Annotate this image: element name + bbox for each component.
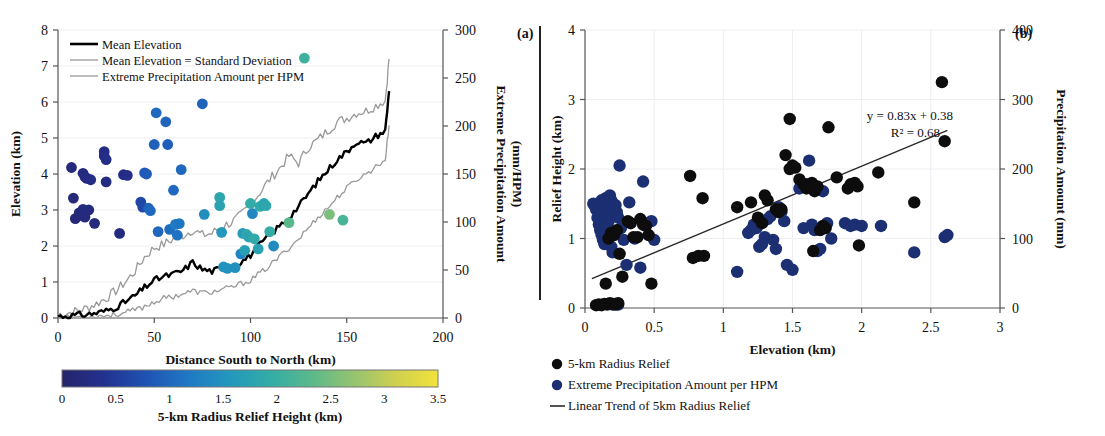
- panel-a-ylabel-right-units: (mm/HPM): [510, 141, 525, 208]
- colorbar-tick-label: 3: [381, 391, 388, 406]
- panel-a-scatter-point: [174, 218, 185, 229]
- colorbar-tick-label: 1.5: [215, 391, 231, 406]
- panel-a-ytick-right-label: 300: [455, 23, 476, 38]
- panel-b-ytick-label: 2: [568, 162, 575, 177]
- panel-a-scatter-point: [245, 198, 256, 209]
- colorbar-tick-label: 3.5: [430, 391, 446, 406]
- legend-marker-dot: [552, 359, 562, 369]
- panel-a-scatter-point: [216, 227, 227, 238]
- panel-a-scatter-point: [324, 209, 335, 220]
- panel-a-ytick-right-label: 250: [455, 71, 476, 86]
- panel-a-scatter-point: [338, 215, 349, 226]
- panel-a-scatter-point: [172, 230, 183, 241]
- panel-a-ytick-label: 2: [41, 239, 48, 254]
- mean-elevation-plus-sd-curve: [58, 59, 389, 318]
- panel-b-precip-point: [875, 220, 887, 232]
- panel-b-precip-point: [637, 175, 649, 187]
- panel-b-relief-point: [745, 196, 757, 208]
- colorbar: [62, 370, 438, 387]
- panel-a-scatter-point: [160, 116, 171, 127]
- panel-b-relief-point: [820, 222, 832, 234]
- panel-b-relief-point: [600, 277, 612, 289]
- panel-b-relief-point: [936, 76, 948, 88]
- panel-a-scatter-point: [66, 162, 77, 173]
- panel-b-relief-point: [779, 149, 791, 161]
- panel-a-ytick-label: 1: [41, 275, 48, 290]
- panel-a-ylabel-right: Extreme Precipitation Amount: [494, 85, 509, 263]
- panel-b-xtick-label: 1: [720, 320, 727, 335]
- panel-a-scatter-point: [114, 228, 125, 239]
- panel-a-scatter-point: [151, 107, 162, 118]
- panel-b-relief-point: [756, 217, 768, 229]
- panel-b-precip-point: [825, 232, 837, 244]
- panel-b-relief-point: [612, 297, 624, 309]
- panel-a-scatter-point: [122, 170, 133, 181]
- panel-b-relief-point: [684, 170, 696, 182]
- panel-a-legend-label: Mean Elevation: [102, 38, 182, 52]
- panel-a-scatter-point: [284, 217, 295, 228]
- panel-a-scatter-point: [145, 205, 156, 216]
- panel-a-xtick-label: 50: [147, 330, 161, 345]
- panel-b-xtick-label: 0.5: [645, 320, 663, 335]
- panel-a-ylabel: Elevation (km): [8, 131, 23, 217]
- panel-a-ytick-label: 7: [41, 59, 48, 74]
- panel-a-scatter-point: [68, 193, 79, 204]
- panel-b-relief-point: [784, 113, 796, 125]
- panel-b-relief-point: [811, 180, 823, 192]
- panel-b-precip-point: [634, 261, 646, 273]
- panel-a-scatter-point: [230, 262, 241, 273]
- panel-a-scatter-point: [85, 174, 96, 185]
- panel-b-xtick-label: 1.5: [784, 320, 802, 335]
- panel-a-scatter-point: [101, 154, 112, 165]
- panel-b-relief-point: [872, 166, 884, 178]
- panel-b-relief-point: [822, 121, 834, 133]
- panel-b-relief-point: [645, 277, 657, 289]
- panel-a-xtick-label: 100: [240, 330, 261, 345]
- panel-b-ytick-right-label: 200: [1012, 162, 1033, 177]
- panel-b-relief-point: [831, 171, 843, 183]
- panel-b-legend: 5-km Radius ReliefExtreme Precipitation …: [550, 356, 779, 413]
- panel-b-ytick-right-label: 300: [1012, 93, 1033, 108]
- panel-a-ytick-label: 8: [41, 23, 48, 38]
- panel-a-scatter-point: [239, 245, 250, 256]
- panel-a-scatter-point: [141, 169, 152, 180]
- panel-b-relief-point: [698, 250, 710, 262]
- panel-b-relief-point: [775, 203, 787, 215]
- panel-a-ytick-label: 3: [41, 203, 48, 218]
- panel-a-ytick-right-label: 100: [455, 215, 476, 230]
- panel-b-relief-point: [613, 248, 625, 260]
- panel-b-relief-point: [696, 192, 708, 204]
- panel-a-ytick-right-label: 0: [455, 311, 462, 326]
- panel-a-xtick-label: 200: [433, 330, 454, 345]
- panel-b-canvas: 0123400.511.522.530100200300400y = 0.83x…: [545, 0, 1105, 436]
- panel-a-ytick-label: 4: [41, 167, 48, 182]
- panel-b-xtick-label: 2.5: [922, 320, 940, 335]
- panel-a-ytick-right-label: 150: [455, 167, 476, 182]
- figure-root: 012345678050100150200050100150200250300M…: [0, 0, 1105, 436]
- panel-b-precip-point: [786, 264, 798, 276]
- panel-b-precip-point: [855, 220, 867, 232]
- panel-a-tag: (a): [517, 26, 534, 42]
- panel-a-xlabel: Distance South to North (km): [165, 352, 335, 367]
- panel-b-ytick-right-label: 100: [1012, 232, 1033, 247]
- panel-b-precip-point: [620, 259, 632, 271]
- panel-a-ytick-label: 5: [41, 131, 48, 146]
- panel-b-relief-point: [908, 196, 920, 208]
- panel-b-ylabel-right: Precipitation Amount (mm): [1054, 89, 1069, 248]
- panel-b-legend-label: Extreme Precipitation Amount per HPM: [568, 377, 779, 392]
- panel-a-scatter-point: [162, 139, 173, 150]
- panel-a-scatter-point: [253, 243, 264, 254]
- panel-b-relief-point: [853, 239, 865, 251]
- colorbar-tick-label: 2.5: [322, 391, 338, 406]
- panel-b-legend-label: 5-km Radius Relief: [568, 356, 670, 371]
- panel-a-scatter-point: [101, 177, 112, 188]
- colorbar-tick-label: 0.5: [108, 391, 124, 406]
- panel-b-legend-label: Linear Trend of 5km Radius Relief: [568, 398, 751, 413]
- panel-b-relief-point: [611, 224, 623, 236]
- panel-a-scatter-point: [249, 233, 260, 244]
- panel-b-relief-point: [851, 180, 863, 192]
- panel-b-xtick-label: 3: [997, 320, 1004, 335]
- panel-a-scatter-point: [199, 209, 210, 220]
- panel-b-relief-point: [616, 271, 628, 283]
- panel-b-relief-point: [631, 231, 643, 243]
